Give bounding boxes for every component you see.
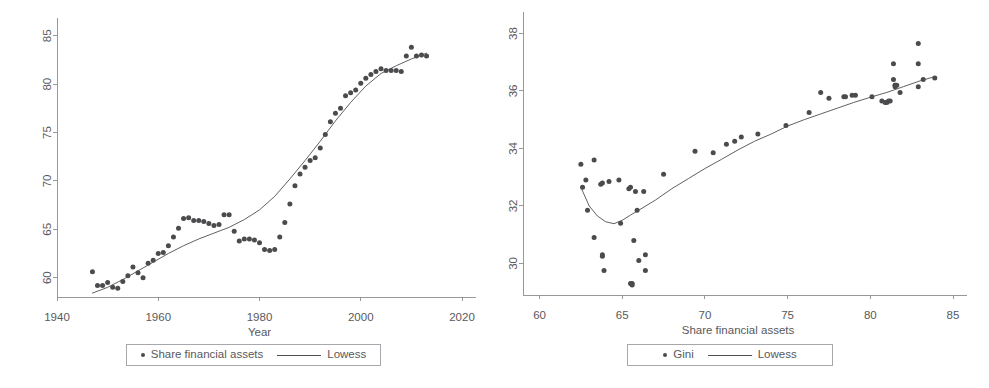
legend-entry-line-left: Lowess (277, 349, 366, 361)
data-point-marker (607, 179, 612, 184)
data-point-marker (631, 238, 636, 243)
data-point-marker (191, 218, 196, 223)
data-point-marker (633, 189, 638, 194)
filled-circle-marker-icon (663, 353, 667, 357)
data-point-marker (328, 119, 333, 124)
filled-circle-marker-icon (141, 353, 145, 357)
solid-line-marker-icon (708, 355, 752, 356)
y-tick-label: 38 (507, 27, 519, 40)
data-point-marker (358, 81, 363, 86)
data-point-marker (661, 172, 666, 177)
data-point-marker (891, 77, 896, 82)
scatter-series (578, 41, 937, 287)
data-point-marker (853, 93, 858, 98)
data-point-marker (95, 283, 100, 288)
data-point-marker (630, 282, 635, 287)
data-point-marker (201, 219, 206, 224)
data-point-marker (186, 215, 191, 220)
data-point-marker (292, 183, 297, 188)
solid-line-marker-icon (277, 355, 321, 356)
data-point-marker (641, 189, 646, 194)
data-point-marker (916, 61, 921, 66)
x-axis-title: Year (248, 326, 271, 338)
y-tick-label: 65 (41, 223, 53, 236)
data-point-marker (353, 87, 358, 92)
data-point-marker (600, 180, 605, 185)
data-point-marker (287, 202, 292, 207)
data-point-marker (409, 45, 414, 50)
x-tick-label: 75 (781, 309, 794, 321)
y-tick-label: 34 (507, 141, 519, 154)
data-point-marker (217, 222, 222, 227)
data-point-marker (222, 212, 227, 217)
data-point-marker (277, 235, 282, 240)
lowess-line (92, 53, 426, 293)
data-point-marker (843, 94, 848, 99)
data-point-marker (368, 72, 373, 77)
data-point-marker (262, 247, 267, 252)
x-tick-label: 2000 (348, 311, 374, 323)
data-point-marker (333, 111, 338, 116)
data-point-marker (211, 223, 216, 228)
data-point-marker (404, 54, 409, 59)
legend-label-scatter-right: Gini (673, 349, 693, 361)
data-point-marker (227, 212, 232, 217)
data-point-marker (711, 150, 716, 155)
data-point-marker (237, 238, 242, 243)
data-point-marker (583, 178, 588, 183)
data-point-marker (600, 254, 605, 259)
data-point-marker (166, 243, 171, 248)
data-point-marker (348, 90, 353, 95)
data-point-marker (693, 149, 698, 154)
data-point-marker (888, 99, 893, 104)
data-point-marker (755, 132, 760, 137)
data-point-marker (282, 220, 287, 225)
y-tick-label: 70 (41, 174, 53, 187)
data-point-marker (592, 157, 597, 162)
data-point-marker (628, 185, 633, 190)
figure-container: 60657075808519401960198020002020Year Sha… (0, 0, 989, 388)
data-point-marker (399, 69, 404, 74)
data-point-marker (636, 258, 641, 263)
data-point-marker (916, 41, 921, 46)
data-point-marker (891, 61, 896, 66)
scatter-series (90, 45, 429, 291)
data-point-marker (196, 218, 201, 223)
y-tick-label: 36 (507, 85, 519, 98)
right-plot-svg: 3032343638606570758085Share financial as… (495, 0, 989, 388)
x-tick-label: 70 (699, 309, 712, 321)
legend-entry-scatter-left: Share financial assets (141, 349, 264, 361)
data-point-marker (916, 84, 921, 89)
data-point-marker (171, 235, 176, 240)
data-point-marker (343, 93, 348, 98)
right-plot-group: 3032343638606570758085Share financial as… (507, 12, 967, 336)
data-point-marker (807, 110, 812, 115)
x-tick-label: 1980 (247, 311, 273, 323)
data-point-marker (257, 240, 262, 245)
y-tick-label: 80 (41, 78, 53, 91)
legend-entry-scatter-right: Gini (663, 349, 693, 361)
data-point-marker (90, 269, 95, 274)
data-point-marker (130, 265, 135, 270)
data-point-marker (252, 237, 257, 242)
data-point-marker (643, 268, 648, 273)
data-point-marker (724, 142, 729, 147)
data-point-marker (379, 66, 384, 71)
data-point-marker (898, 90, 903, 95)
legend-right: Gini Lowess (627, 344, 833, 366)
data-point-marker (616, 178, 621, 183)
data-point-marker (602, 268, 607, 273)
data-point-marker (267, 248, 272, 253)
legend-label-line-left: Lowess (327, 349, 366, 361)
chart-panel-right: 3032343638606570758085Share financial as… (495, 0, 989, 388)
x-tick-label: 85 (947, 309, 960, 321)
data-point-marker (373, 69, 378, 74)
x-tick-label: 60 (533, 309, 546, 321)
x-tick-label: 1940 (44, 311, 70, 323)
data-point-marker (739, 134, 744, 139)
data-point-marker (115, 286, 120, 291)
data-point-marker (141, 275, 146, 280)
data-point-marker (298, 172, 303, 177)
data-point-marker (826, 96, 831, 101)
x-tick-label: 65 (616, 309, 629, 321)
